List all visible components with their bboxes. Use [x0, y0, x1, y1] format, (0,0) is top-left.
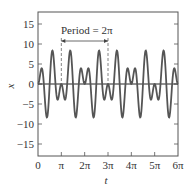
x-axis-label: t: [104, 174, 108, 186]
x-axis-ticks: 0π2π3π4π5π6π: [35, 152, 184, 171]
arrowhead-right-icon: [104, 39, 108, 43]
chart: 151050−5−10−15 0π2π3π4π5π6π Period = 2π …: [0, 0, 191, 187]
x-tick-label: 2π: [79, 159, 91, 171]
y-tick-label: −5: [22, 98, 34, 110]
x-tick-label: 5π: [149, 159, 161, 171]
x-tick-label: 0: [35, 159, 41, 171]
y-tick-label: 0: [29, 78, 35, 90]
y-tick-label: −10: [17, 118, 35, 130]
x-tick-label: 4π: [126, 159, 138, 171]
y-tick-label: 15: [23, 18, 35, 30]
x-tick-label: 3π: [102, 159, 114, 171]
y-axis-label: x: [4, 83, 16, 89]
y-tick-label: −15: [17, 138, 35, 150]
x-tick-label: 6π: [172, 159, 184, 171]
x-tick-label: π: [59, 159, 65, 171]
period-label: Period = 2π: [61, 24, 113, 36]
arrowhead-left-icon: [61, 39, 65, 43]
y-tick-label: 10: [23, 38, 35, 50]
y-tick-label: 5: [29, 58, 35, 70]
